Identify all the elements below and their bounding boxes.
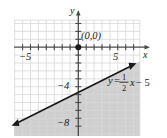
equation-constant: − 5 xyxy=(136,77,150,88)
equation-lhs: y xyxy=(107,75,113,86)
graph-figure: −5 5 −4 −8 x y (0,0) y = 1 2 x − 5 xyxy=(0,0,167,138)
origin-label: (0,0) xyxy=(81,30,102,42)
y-tick-label-neg4: −4 xyxy=(57,80,70,91)
equation-fraction-denominator: 2 xyxy=(122,83,126,93)
equation-equals: = xyxy=(114,75,120,86)
y-tick-label-neg8: −8 xyxy=(57,117,70,128)
equation-fraction-numerator: 1 xyxy=(122,72,126,82)
x-axis-label: x xyxy=(142,49,148,60)
x-tick-label-5: 5 xyxy=(113,51,118,62)
coordinate-plane-svg: −5 5 −4 −8 x y (0,0) y = 1 2 x − 5 xyxy=(0,0,167,138)
x-tick-label-neg5: −5 xyxy=(19,51,31,62)
y-axis-label: y xyxy=(69,5,75,16)
origin-point xyxy=(75,44,81,50)
equation-variable: x xyxy=(129,77,135,88)
